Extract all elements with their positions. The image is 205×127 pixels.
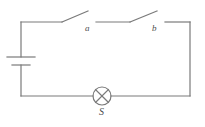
switch-b-blade[interactable] bbox=[130, 11, 157, 22]
circuit-diagram: a b S bbox=[0, 0, 205, 127]
switch-b-label: b bbox=[152, 24, 157, 33]
switch-a-label: a bbox=[85, 24, 90, 33]
circuit-wiring bbox=[7, 11, 190, 105]
lamp-label: S bbox=[99, 107, 104, 117]
switch-a-blade[interactable] bbox=[62, 11, 88, 22]
